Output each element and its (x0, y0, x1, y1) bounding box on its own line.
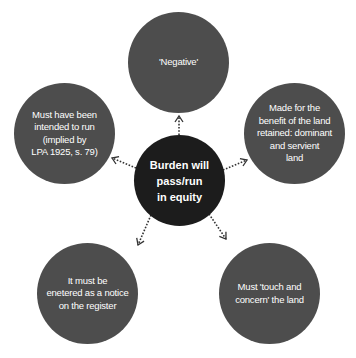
arrow-to-right (223, 160, 247, 170)
node-label: Must have been intended to run (implied … (31, 109, 97, 159)
arrow-to-bottom-left (138, 215, 151, 245)
node-label: It must be enetered as a notice on the r… (46, 275, 128, 313)
covenant-burden-diagram: 'Negative' Made for the benefit of the l… (0, 0, 356, 358)
node-label: Must 'touch and concern' the land (235, 281, 304, 306)
arrow-to-left (112, 158, 136, 168)
center-node-burden: Burden will pass/run in equity (134, 135, 225, 226)
node-intended-to-run: Must have been intended to run (implied … (14, 83, 115, 184)
node-label: Made for the benefit of the land retaine… (257, 102, 332, 165)
node-negative: 'Negative' (128, 12, 229, 113)
arrow-to-bottom-right (209, 214, 226, 239)
node-benefit-of-land: Made for the benefit of the land retaine… (244, 83, 345, 184)
center-label: Burden will pass/run in equity (150, 157, 209, 205)
node-touch-and-concern: Must 'touch and concern' the land (219, 243, 320, 344)
node-label: 'Negative' (159, 56, 198, 69)
node-notice-on-register: It must be enetered as a notice on the r… (37, 243, 138, 344)
